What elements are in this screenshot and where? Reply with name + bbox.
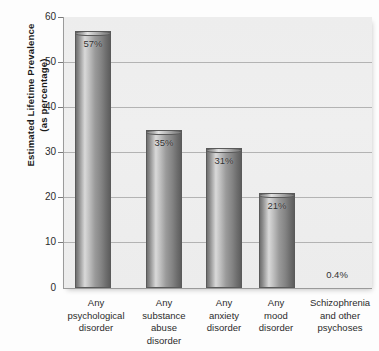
y-axis-title-line2: (as percentage) [37,58,50,131]
y-axis-title-line1: Estimated Lifetime Prevalence [24,23,37,166]
x-category-line: and other [301,310,379,323]
bar-top-cap [75,31,111,36]
bar-value-label: 35% [147,137,181,148]
y-tick-label-40: 40 [30,102,56,112]
bar-any-anxiety-disorder: 31% [206,148,242,288]
x-category-line: Any [54,297,138,310]
bar-any-substance-abuse-disorder: 35% [146,130,182,288]
y-tick-label-30: 30 [30,147,56,157]
bar-value-label-schizophrenia: 0.4% [307,269,367,280]
y-tick-20: 20 [0,192,56,202]
y-tick-label-10: 10 [30,237,56,247]
plot-area: 57% 35% 31% 21% 0.4% [63,17,372,289]
y-tick-60: 60 [0,12,56,22]
x-category-label-any-mood-disorder: Any mood disorder [243,297,309,335]
y-tick-30: 30 [0,147,56,157]
y-tick-50: 50 [0,57,56,67]
x-category-line: mood [243,310,309,323]
x-category-line: disorder [54,322,138,335]
x-category-line: disorder [128,335,200,348]
x-category-label-schizophrenia-and-other-psychoses: Schizophrenia and other psychoses [301,297,379,335]
y-tick-label-50: 50 [30,57,56,67]
bar-value-label: 57% [76,38,110,49]
y-tick-label-60: 60 [30,12,56,22]
bar-value-label: 31% [207,155,241,166]
y-tick-label-20: 20 [30,192,56,202]
x-category-label-any-psychological-disorder: Any psychological disorder [54,297,138,335]
x-category-line: disorder [243,322,309,335]
bar-any-mood-disorder: 21% [259,193,295,288]
y-tick-0: 0 [0,283,56,293]
bar-chart: Estimated Lifetime Prevalence (as percen… [0,0,379,351]
bar-top-cap [206,148,242,153]
bar-value-label: 21% [260,200,294,211]
bar-top-cap [259,193,295,198]
y-tick-label-0: 0 [30,283,56,293]
x-category-line: psychological [54,310,138,323]
y-tick-40: 40 [0,102,56,112]
bar-top-cap [146,130,182,135]
x-category-line: Any [243,297,309,310]
y-axis-title: Estimated Lifetime Prevalence (as percen… [20,0,54,200]
bar-any-psychological-disorder: 57% [75,31,111,288]
x-category-line: psychoses [301,322,379,335]
y-tick-10: 10 [0,237,56,247]
x-category-line: Schizophrenia [301,297,379,310]
